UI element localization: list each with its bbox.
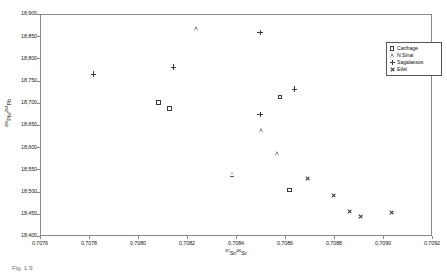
- data-point-sagalassos: [171, 64, 177, 70]
- y-tick-label: 18,850: [3, 34, 37, 39]
- x-tick-mark: [334, 236, 335, 239]
- x-tick-mark: [236, 236, 237, 239]
- x-tick-mark: [40, 236, 41, 239]
- legend-item-label: Sagalassos: [397, 60, 423, 65]
- x-tick-label: 0,7090: [363, 241, 403, 246]
- x-tick-label: 0,7086: [265, 241, 305, 246]
- y-tick-label: 18,900: [3, 11, 37, 16]
- data-point-sagalassos: [91, 71, 97, 77]
- x-tick-label: 0,7078: [69, 241, 109, 246]
- x-tick-mark: [187, 236, 188, 239]
- data-point-eifel: [347, 209, 352, 214]
- y-axis-title: 206Pb/204Pb: [6, 73, 12, 153]
- x-tick-label: 0,7082: [167, 241, 207, 246]
- x-axis-title: 87Sr/86Sr: [40, 250, 432, 256]
- legend-item-label: Carthage: [397, 46, 418, 51]
- x-tick-mark: [285, 236, 286, 239]
- y-tick-label: 18,450: [3, 211, 37, 216]
- data-point-eifel: [358, 214, 363, 219]
- figure-container: 18,40018,45018,50018,55018,60018,65018,7…: [0, 0, 447, 276]
- data-point-carthage: [278, 95, 282, 99]
- legend-marker-icon: [389, 45, 397, 52]
- plot-area: CarthageN SinaiSagalassosEifel: [40, 14, 432, 236]
- y-tick-label: 18,500: [3, 189, 37, 194]
- data-point-sagalassos: [257, 112, 263, 118]
- data-point-eifel: [389, 210, 394, 215]
- data-point-carthage: [287, 188, 291, 192]
- legend-item-eifel: Eifel: [389, 66, 439, 73]
- data-point-sagalassos: [257, 30, 263, 36]
- x-tick-mark: [432, 236, 433, 239]
- x-tick-mark: [138, 236, 139, 239]
- data-point-eifel: [305, 176, 310, 181]
- legend-marker-icon: [389, 59, 397, 66]
- legend-item-n-sinai: N Sinai: [389, 52, 439, 59]
- y-tick-label: 18,550: [3, 167, 37, 172]
- x-tick-label: 0,7076: [20, 241, 60, 246]
- legend-item-label: N Sinai: [397, 53, 413, 58]
- legend-item-label: Eifel: [397, 67, 407, 72]
- x-tick-label: 0,7088: [314, 241, 354, 246]
- figure-caption: Fig. 1 S: [12, 265, 33, 272]
- x-tick-mark: [383, 236, 384, 239]
- data-point-n-sinai: [194, 26, 198, 31]
- legend-item-carthage: Carthage: [389, 45, 439, 52]
- data-point-eifel: [331, 193, 336, 198]
- data-point-n-sinai: [275, 151, 279, 156]
- data-point-sagalassos: [292, 86, 298, 92]
- y-tick-label: 18,800: [3, 56, 37, 61]
- data-point-n-sinai: [259, 128, 263, 133]
- legend-marker-icon: [389, 66, 397, 73]
- data-point-n-sinai: [230, 172, 234, 177]
- chart-legend: CarthageN SinaiSagalassosEifel: [386, 42, 442, 76]
- data-point-carthage: [167, 106, 171, 110]
- legend-item-sagalassos: Sagalassos: [389, 59, 439, 66]
- x-tick-label: 0,7080: [118, 241, 158, 246]
- x-tick-label: 0,7084: [216, 241, 256, 246]
- x-tick-mark: [89, 236, 90, 239]
- legend-marker-icon: [389, 52, 397, 59]
- x-tick-label: 0,7092: [412, 241, 447, 246]
- y-tick-label: 18,400: [3, 233, 37, 238]
- data-point-carthage: [156, 100, 160, 104]
